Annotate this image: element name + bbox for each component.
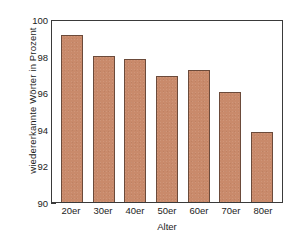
- x-axis-tick-label: 70er: [218, 205, 244, 216]
- y-axis-tick-label: 90: [8, 198, 48, 209]
- y-axis-tick-mark: [51, 203, 56, 204]
- x-axis-tick-label: 50er: [154, 205, 180, 216]
- y-axis-tick-label: 92: [8, 161, 48, 172]
- y-axis-tick-label: 94: [8, 124, 48, 135]
- x-axis-tick-label: 60er: [186, 205, 212, 216]
- x-axis-tick-label: 80er: [250, 205, 276, 216]
- x-axis-tick-label: 20er: [58, 205, 84, 216]
- bar-50er: [156, 76, 178, 202]
- bar-80er: [251, 132, 273, 202]
- bar-30er: [93, 56, 115, 202]
- plot-area: [51, 20, 283, 203]
- x-axis-tick-labels: 20er30er40er50er60er70er80er: [51, 205, 283, 216]
- y-axis-tick-label: 100: [8, 15, 48, 26]
- x-axis-title: Alter: [51, 221, 283, 232]
- y-axis-tick-label: 98: [8, 51, 48, 62]
- x-axis-tick-label: 40er: [122, 205, 148, 216]
- bar-series: [52, 21, 282, 202]
- y-axis-tick-label: 96: [8, 88, 48, 99]
- bar-60er: [188, 70, 210, 202]
- chart-figure: wiedererkannte Wörter in Prozent 9092949…: [0, 0, 303, 240]
- x-axis-tick-label: 30er: [90, 205, 116, 216]
- bar-70er: [219, 92, 241, 202]
- bar-40er: [124, 59, 146, 202]
- bar-20er: [61, 35, 83, 202]
